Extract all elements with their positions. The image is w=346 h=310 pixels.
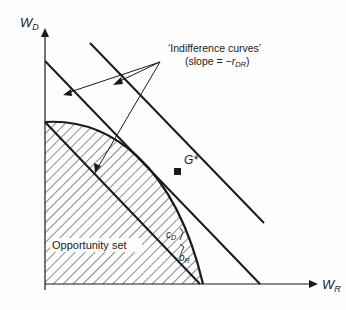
x-axis-label: WR (322, 277, 341, 294)
pointer-arrowhead-middle-icon (63, 89, 72, 96)
indifference-curves-title: ‘Indifference curves’ (168, 42, 261, 54)
y-axis-arrow-icon (41, 28, 49, 37)
y-axis-label: WD (20, 15, 39, 32)
x-axis-arrow-icon (309, 280, 318, 288)
optimum-label: G* (184, 153, 198, 167)
opportunity-set-label: Opportunity set (52, 239, 127, 251)
slope-annotation: (slope = −rDR) (185, 55, 250, 69)
pointer-arrowhead-outer-icon (113, 77, 123, 85)
opportunity-set-diagram: WD WR ‘Indifference curves’ (slope = −rD… (0, 0, 346, 310)
optimum-point-marker (174, 168, 181, 175)
